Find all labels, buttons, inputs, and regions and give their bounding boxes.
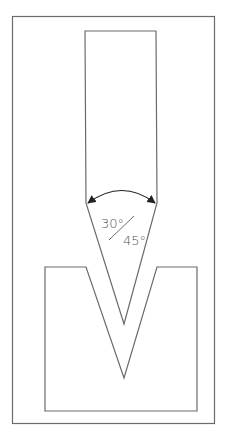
angle-label-30: 30° — [101, 216, 124, 231]
angle-label-45: 45° — [123, 233, 146, 248]
angle-arc — [88, 191, 155, 204]
punch-blade — [85, 31, 157, 324]
v-die — [45, 267, 197, 411]
bending-diagram: 30° 45° — [0, 0, 227, 427]
